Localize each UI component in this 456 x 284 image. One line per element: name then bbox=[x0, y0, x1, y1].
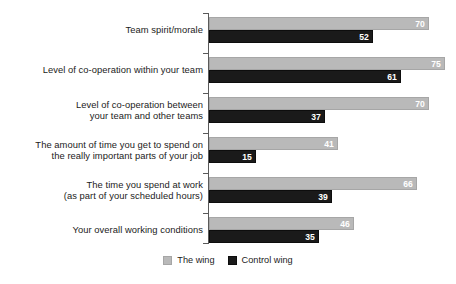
bar-the-wing: 66 bbox=[209, 177, 417, 190]
legend-swatch-icon bbox=[163, 256, 172, 265]
bar-control-wing: 37 bbox=[209, 110, 325, 123]
bar-value-label: 41 bbox=[324, 139, 334, 148]
axis-tick bbox=[203, 13, 209, 14]
bar-control-wing: 52 bbox=[209, 30, 373, 43]
bar-value-label: 52 bbox=[359, 32, 369, 41]
bar-value-label: 70 bbox=[415, 99, 425, 108]
bar-value-label: 37 bbox=[311, 112, 321, 121]
bar-the-wing: 70 bbox=[209, 17, 429, 30]
bar-control-wing: 35 bbox=[209, 230, 319, 243]
bar-pair: 7037 bbox=[209, 97, 429, 123]
bar-pair: 7052 bbox=[209, 17, 429, 43]
plot-area: Team spirit/morale7052Level of co-operat… bbox=[0, 0, 456, 248]
bar-control-wing: 39 bbox=[209, 190, 332, 203]
bar-the-wing: 41 bbox=[209, 137, 338, 150]
bar-value-label: 61 bbox=[387, 72, 397, 81]
bar-value-label: 70 bbox=[415, 19, 425, 28]
legend-item-the-wing[interactable]: The wing bbox=[163, 255, 214, 265]
axis-tick bbox=[203, 173, 209, 174]
bar-the-wing: 46 bbox=[209, 217, 354, 230]
axis-tick bbox=[203, 213, 209, 214]
value-axis-line bbox=[208, 13, 209, 243]
legend-label: The wing bbox=[177, 255, 214, 265]
axis-tick bbox=[203, 93, 209, 94]
chart-legend: The wingControl wing bbox=[0, 255, 456, 265]
category-label: Your overall working conditions bbox=[0, 224, 203, 235]
bar-value-label: 39 bbox=[318, 192, 328, 201]
bar-pair: 4115 bbox=[209, 137, 338, 163]
category-label: Level of co-operation within your team bbox=[0, 64, 203, 75]
bar-pair: 4635 bbox=[209, 217, 354, 243]
bar-pair: 7561 bbox=[209, 57, 445, 83]
axis-tick bbox=[203, 243, 209, 244]
bar-control-wing: 61 bbox=[209, 70, 401, 83]
axis-tick bbox=[203, 133, 209, 134]
legend-label: Control wing bbox=[242, 255, 293, 265]
category-label: Level of co-operation between your team … bbox=[0, 99, 203, 122]
bar-control-wing: 15 bbox=[209, 150, 256, 163]
bar-value-label: 66 bbox=[403, 179, 413, 188]
axis-tick bbox=[203, 53, 209, 54]
bar-value-label: 15 bbox=[242, 152, 252, 161]
category-label: Team spirit/morale bbox=[0, 24, 203, 35]
horizontal-bar-chart: Team spirit/morale7052Level of co-operat… bbox=[0, 0, 456, 284]
category-label: The time you spend at work (as part of y… bbox=[0, 179, 203, 202]
bar-value-label: 35 bbox=[305, 232, 315, 241]
category-label: The amount of time you get to spend on t… bbox=[0, 139, 203, 162]
bar-value-label: 46 bbox=[340, 219, 350, 228]
legend-swatch-icon bbox=[228, 256, 237, 265]
bar-value-label: 75 bbox=[431, 59, 441, 68]
bar-the-wing: 70 bbox=[209, 97, 429, 110]
bar-the-wing: 75 bbox=[209, 57, 445, 70]
bar-pair: 6639 bbox=[209, 177, 417, 203]
legend-item-control-wing[interactable]: Control wing bbox=[228, 255, 293, 265]
